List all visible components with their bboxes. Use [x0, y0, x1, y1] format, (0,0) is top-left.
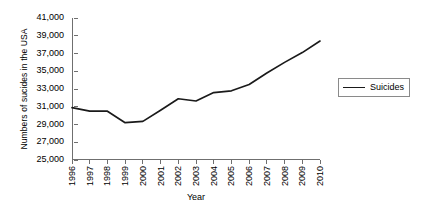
x-tick-label: 2001	[156, 166, 166, 186]
y-tick-label: 29,000	[36, 119, 64, 130]
x-tick-label: 2010	[315, 166, 325, 186]
x-tick-mark	[160, 160, 161, 164]
x-tick-label: 2006	[244, 166, 254, 186]
x-tick-label: 2003	[191, 166, 201, 186]
x-tick-label: 1996	[67, 166, 77, 186]
x-tick-mark	[213, 160, 214, 164]
line-chart: Numbers of sucides in the USA 25,00027,0…	[0, 0, 425, 212]
x-tick-label: 1998	[102, 166, 112, 186]
x-tick-label: 2005	[226, 166, 236, 186]
x-tick-label: 2008	[280, 166, 290, 186]
y-tick-label: 37,000	[36, 48, 64, 59]
x-tick-mark	[196, 160, 197, 164]
y-axis-title: Numbers of sucides in the USA	[10, 14, 36, 164]
legend-label-suicides: Suicides	[370, 82, 404, 93]
x-tick-mark	[107, 160, 108, 164]
x-tick-mark	[231, 160, 232, 164]
x-tick-mark	[125, 160, 126, 164]
x-tick-mark	[320, 160, 321, 164]
x-axis-title-label: Year	[187, 192, 205, 202]
y-tick-label: 41,000	[36, 12, 64, 23]
x-tick-label: 2009	[297, 166, 307, 186]
x-tick-label: 2002	[173, 166, 183, 186]
x-tick-label: 2004	[209, 166, 219, 186]
x-tick-mark	[178, 160, 179, 164]
x-tick-label: 2007	[262, 166, 272, 186]
x-tick-mark	[89, 160, 90, 164]
y-tick-label: 33,000	[36, 83, 64, 94]
y-tick-label: 39,000	[36, 30, 64, 41]
series-line-suicides	[72, 41, 320, 123]
series-suicides	[72, 18, 320, 160]
y-tick-label: 25,000	[36, 154, 64, 165]
x-tick-mark	[249, 160, 250, 164]
x-tick-label: 1999	[120, 166, 130, 186]
y-tick-label: 27,000	[36, 136, 64, 147]
y-axis-title-label: Numbers of sucides in the USA	[18, 28, 28, 149]
x-axis-title: Year	[72, 192, 320, 202]
x-tick-mark	[284, 160, 285, 164]
legend-line-swatch	[343, 87, 365, 88]
y-tick-label: 35,000	[36, 65, 64, 76]
x-tick-label: 2000	[138, 166, 148, 186]
x-tick-mark	[302, 160, 303, 164]
x-tick-mark	[72, 160, 73, 164]
chart-legend: Suicides	[338, 78, 410, 97]
x-tick-mark	[266, 160, 267, 164]
plot-area: 25,00027,00029,00031,00033,00035,00037,0…	[72, 18, 320, 160]
y-tick-label: 31,000	[36, 101, 64, 112]
x-tick-mark	[142, 160, 143, 164]
x-tick-label: 1997	[85, 166, 95, 186]
